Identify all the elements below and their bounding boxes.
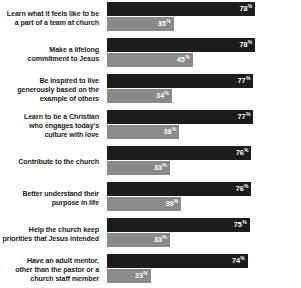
secondary-bar: 33% <box>107 233 170 247</box>
bar-value-label: 38% <box>164 127 180 136</box>
category-label-line: Be inspired to live <box>0 77 99 86</box>
bar-value-number: 74 <box>232 257 240 266</box>
category-label: Learn to be a Christianwho engages today… <box>0 113 103 139</box>
secondary-bar: 23% <box>107 269 151 283</box>
bar-value-label: 39% <box>165 199 181 208</box>
category-label-line: Learn to be a Christian <box>0 113 99 122</box>
bar-value-number: 75 <box>234 221 242 230</box>
percent-sign: % <box>242 219 246 225</box>
bar-value-number: 35 <box>158 20 166 29</box>
percent-sign: % <box>162 234 166 240</box>
bar-value-label: 74% <box>232 256 248 265</box>
category-label-line: generously based on the <box>0 86 99 95</box>
bar-value-label: 78% <box>240 4 256 13</box>
percent-sign: % <box>244 147 248 153</box>
bar-value-label: 77% <box>238 76 254 85</box>
category-label: Be inspired to livegenerously based on t… <box>0 77 103 103</box>
primary-bar: 78% <box>107 2 255 16</box>
secondary-bar: 39% <box>107 197 181 211</box>
chart-row: Make a lifelongcommitment to Jesus78%45% <box>0 38 301 71</box>
category-label-line: Help the church keep <box>0 226 99 235</box>
category-label-line: Have an adult mentor, <box>0 257 99 266</box>
category-label: Have an adult mentor,other than the past… <box>0 257 103 283</box>
percent-sign: % <box>248 3 252 9</box>
horizontal-grouped-bar-chart: Learn what it feels like to bea part of … <box>0 0 301 288</box>
category-label-line: who engages today's <box>0 122 99 131</box>
chart-row: Contribute to the church76%33% <box>0 146 301 179</box>
category-label-line: a part of a team at church <box>0 19 99 28</box>
bar-value-label: 35% <box>158 19 174 28</box>
bar-value-label: 45% <box>177 55 193 64</box>
chart-row: Learn to be a Christianwho engages today… <box>0 110 301 143</box>
primary-bar: 76% <box>107 182 251 196</box>
category-label-line: other than the pastor or a <box>0 266 99 275</box>
bar-value-number: 45 <box>177 56 185 65</box>
category-label-line: priorities that Jesus intended <box>0 235 99 244</box>
category-label-line: Better understand their <box>0 190 99 199</box>
percent-sign: % <box>166 18 170 24</box>
bar-value-label: 77% <box>238 112 254 121</box>
percent-sign: % <box>246 111 250 117</box>
percent-sign: % <box>185 54 189 60</box>
bar-value-label: 34% <box>156 91 172 100</box>
bar-value-number: 77 <box>238 113 246 122</box>
chart-row: Help the church keeppriorities that Jesu… <box>0 218 301 251</box>
category-label-line: commitment to Jesus <box>0 55 99 64</box>
percent-sign: % <box>162 162 166 168</box>
percent-sign: % <box>164 90 168 96</box>
bar-group: 75%33% <box>103 218 301 251</box>
secondary-bar: 35% <box>107 17 174 31</box>
bar-value-number: 76 <box>236 149 244 158</box>
chart-row: Be inspired to livegenerously based on t… <box>0 74 301 107</box>
bar-value-number: 38 <box>164 128 172 137</box>
percent-sign: % <box>172 126 176 132</box>
percent-sign: % <box>244 183 248 189</box>
category-label-line: Make a lifelong <box>0 46 99 55</box>
primary-bar: 76% <box>107 146 251 160</box>
secondary-bar: 38% <box>107 125 179 139</box>
percent-sign: % <box>246 75 250 81</box>
secondary-bar: 34% <box>107 89 172 103</box>
category-label-line: culture with love <box>0 131 99 140</box>
percent-sign: % <box>174 198 178 204</box>
primary-bar: 74% <box>107 254 248 268</box>
primary-bar: 77% <box>107 110 253 124</box>
bar-value-label: 78% <box>240 40 256 49</box>
bar-value-number: 34 <box>156 92 164 101</box>
bar-group: 74%23% <box>103 254 301 287</box>
category-label: Better understand theirpurpose in life <box>0 190 103 207</box>
primary-bar: 78% <box>107 38 255 52</box>
secondary-bar: 45% <box>107 53 193 67</box>
bar-value-number: 33 <box>154 236 162 245</box>
category-label: Contribute to the church <box>0 158 103 167</box>
category-label-line: example of others <box>0 95 99 104</box>
bar-group: 77%38% <box>103 110 301 143</box>
bar-group: 76%33% <box>103 146 301 179</box>
bar-value-number: 76 <box>236 185 244 194</box>
bar-group: 78%35% <box>103 2 301 35</box>
bar-value-number: 39 <box>165 200 173 209</box>
primary-bar: 75% <box>107 218 250 232</box>
category-label-line: church staff member <box>0 275 99 284</box>
category-label: Make a lifelongcommitment to Jesus <box>0 46 103 63</box>
category-label-line: purpose in life <box>0 199 99 208</box>
bar-value-label: 33% <box>154 235 170 244</box>
bar-value-number: 78 <box>240 41 248 50</box>
bar-value-label: 76% <box>236 148 252 157</box>
bar-group: 76%39% <box>103 182 301 215</box>
bar-value-number: 77 <box>238 77 246 86</box>
percent-sign: % <box>240 255 244 261</box>
bar-value-number: 78 <box>240 5 248 14</box>
bar-group: 77%34% <box>103 74 301 107</box>
primary-bar: 77% <box>107 74 253 88</box>
category-label-line: Contribute to the church <box>0 158 99 167</box>
bar-value-label: 76% <box>236 184 252 193</box>
bar-value-number: 23 <box>135 272 143 281</box>
bar-value-label: 23% <box>135 271 151 280</box>
chart-row: Better understand theirpurpose in life76… <box>0 182 301 215</box>
category-label-line: Learn what it feels like to be <box>0 10 99 19</box>
bar-value-label: 75% <box>234 220 250 229</box>
chart-row: Have an adult mentor,other than the past… <box>0 254 301 287</box>
bar-value-number: 33 <box>154 164 162 173</box>
percent-sign: % <box>248 39 252 45</box>
